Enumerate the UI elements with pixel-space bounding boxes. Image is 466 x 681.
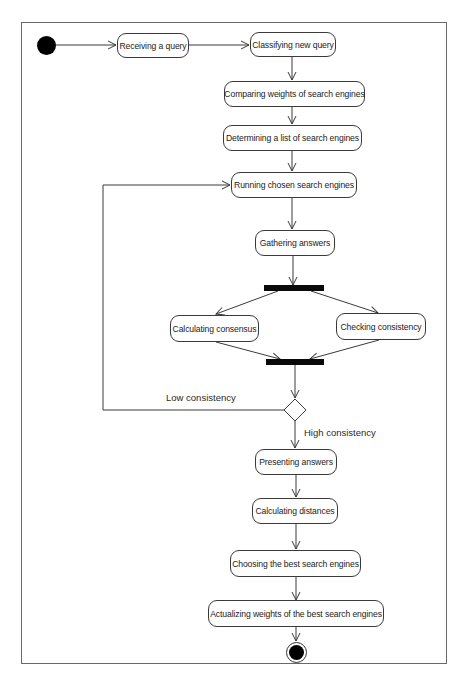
activity-gathering: Gathering answers: [255, 230, 335, 256]
activity-label: Comparing weights of search engines: [224, 89, 364, 99]
activity-classifying: Classifying new query: [250, 32, 336, 57]
activity-determining: Determining a list of search engines: [223, 125, 362, 151]
activity-checking: Checking consistency: [336, 313, 426, 340]
activity-actualizing: Actualizing weights of the best search e…: [208, 600, 384, 627]
activity-consensus: Calculating consensus: [170, 315, 259, 342]
activity-label: Checking consistency: [340, 322, 421, 332]
edge-fork-checking: [311, 291, 378, 313]
activity-label: Classifying new query: [252, 40, 334, 50]
initial-node: [37, 36, 56, 55]
activity-label: Calculating consensus: [173, 324, 257, 334]
edge-fork-consensus: [216, 291, 278, 314]
decision-diamond: [284, 399, 306, 421]
activity-label: Choosing the best search engines: [232, 559, 359, 569]
activity-label: Receiving a query: [119, 41, 186, 51]
edge-checking-join: [310, 340, 379, 359]
edge-consensus-join: [216, 342, 280, 359]
activity-distances: Calculating distances: [252, 498, 338, 524]
activity-choosing: Choosing the best search engines: [230, 550, 361, 577]
activity-presenting: Presenting answers: [255, 449, 337, 475]
activity-comparing: Comparing weights of search engines: [224, 81, 365, 107]
fork-bar: [264, 285, 324, 291]
activity-label: Gathering answers: [260, 238, 330, 248]
activity-running: Running chosen search engines: [231, 172, 357, 198]
activity-label: Actualizing weights of the best search e…: [210, 609, 382, 619]
activity-label: Running chosen search engines: [234, 180, 354, 190]
activity-label: Presenting answers: [259, 457, 333, 467]
activity-receiving: Receiving a query: [117, 33, 189, 58]
guard-high-consistency: High consistency: [304, 427, 376, 438]
activity-diagram: Receiving a query Classifying new query …: [0, 0, 466, 681]
activity-label: Calculating distances: [255, 506, 334, 516]
edge-decision-running-loop: [103, 185, 285, 410]
join-bar: [266, 359, 324, 365]
activity-label: Determining a list of search engines: [226, 133, 359, 143]
guard-low-consistency: Low consistency: [166, 392, 236, 403]
final-node-core: [289, 645, 304, 660]
